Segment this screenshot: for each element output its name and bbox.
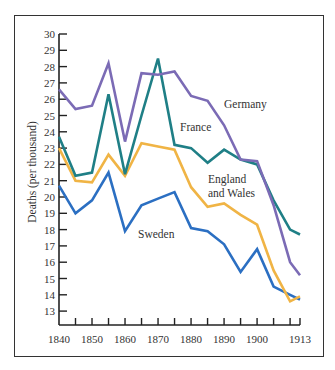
y-tick-label: 21 (44, 175, 55, 187)
series-lines (59, 59, 300, 302)
x-axis: 18401850186018701880189019001913 (48, 318, 312, 345)
series-label-england-line1: England (208, 173, 247, 186)
y-tick-label: 20 (44, 191, 56, 203)
series-label-sweden: Sweden (138, 228, 175, 240)
y-tick-label: 15 (44, 273, 56, 285)
y-tick-label: 25 (44, 110, 56, 122)
series-label-france: France (180, 121, 211, 133)
y-tick-label: 24 (44, 126, 56, 138)
series-label-germany: Germany (224, 98, 267, 111)
y-tick-label: 13 (44, 305, 56, 317)
y-tick-label: 28 (44, 61, 56, 73)
y-tick-label: 29 (44, 44, 56, 56)
x-tick-label: 1900 (246, 333, 269, 345)
y-tick-label: 26 (44, 93, 56, 105)
y-axis-title: Deaths (per thousand) (26, 121, 39, 223)
x-tick-label: 1850 (81, 333, 104, 345)
y-tick-label: 17 (44, 240, 56, 252)
y-tick-label: 18 (44, 224, 56, 236)
x-tick-label: 1860 (114, 333, 137, 345)
y-tick-label: 14 (44, 289, 56, 301)
x-tick-label: 1880 (180, 333, 203, 345)
y-tick-label: 23 (44, 142, 56, 154)
series-line-england-and-wales (59, 143, 300, 301)
series-line-sweden (59, 173, 300, 300)
x-tick-label: 1913 (289, 333, 312, 345)
y-tick-label: 19 (44, 207, 56, 219)
y-tick-label: 30 (44, 28, 56, 40)
x-tick-label: 1870 (147, 333, 170, 345)
y-tick-label: 16 (44, 256, 56, 268)
line-chart: 131415161718192021222324252627282930 184… (0, 0, 335, 370)
x-tick-label: 1840 (48, 333, 71, 345)
x-tick-label: 1890 (213, 333, 236, 345)
series-label-england-line2: and Wales (208, 187, 256, 199)
y-tick-label: 22 (44, 158, 55, 170)
y-axis: 131415161718192021222324252627282930 (44, 28, 67, 325)
y-tick-label: 27 (44, 77, 56, 89)
series-line-france (59, 59, 300, 235)
